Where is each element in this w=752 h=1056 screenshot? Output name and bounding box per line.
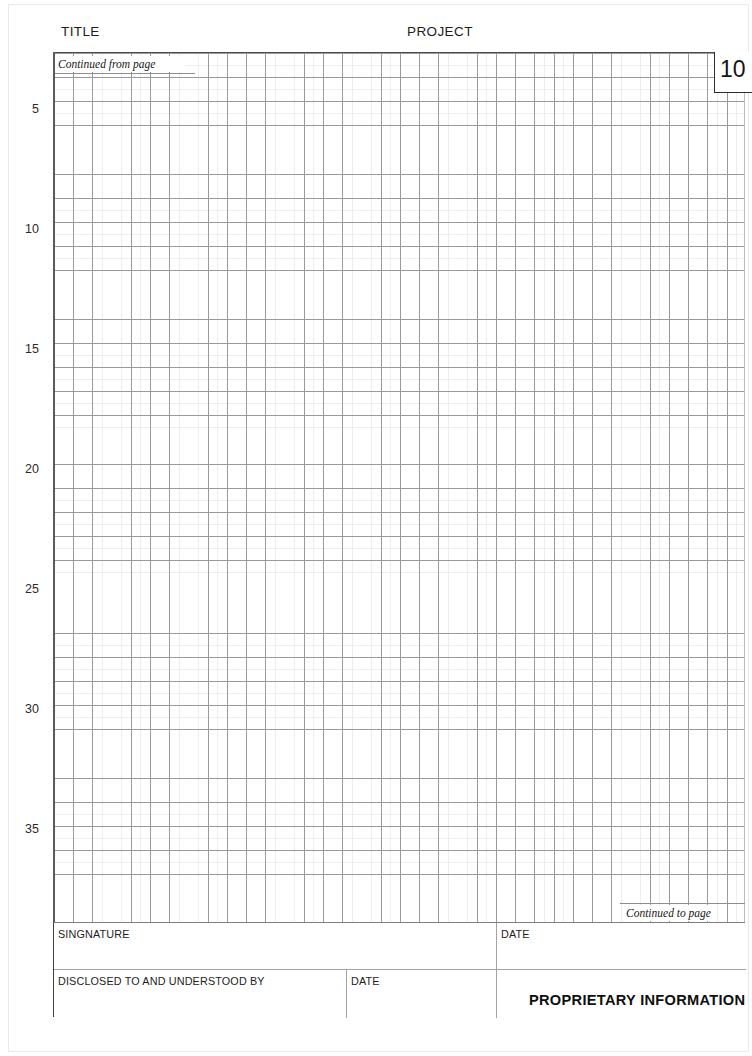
disclosed-to-label: DISCLOSED TO AND UNDERSTOOD BY	[58, 975, 265, 987]
page-border-top	[8, 4, 749, 5]
header-row: TITLE PROJECT	[0, 24, 752, 46]
signature-field[interactable]: SINGNATURE	[54, 923, 496, 969]
disclosed-date-field[interactable]: DATE	[347, 970, 496, 1018]
continued-to-page-field[interactable]: Continued to page	[624, 905, 715, 921]
row-number-gutter: 5101520253035	[0, 52, 53, 922]
disclosed-date-label: DATE	[351, 975, 380, 987]
row-number-15: 15	[25, 343, 39, 356]
footer-divider-horizontal-left	[54, 969, 496, 970]
footer-divider-horizontal-right	[497, 969, 746, 970]
signature-label: SINGNATURE	[58, 928, 130, 940]
grid-left-margin-rule	[53, 52, 55, 922]
page-number-box: 10	[714, 52, 752, 93]
proprietary-notice-cell: PROPRIETARY INFORMATION	[497, 970, 746, 1018]
signature-date-label: DATE	[501, 928, 530, 940]
row-number-10: 10	[25, 223, 39, 236]
project-field-label: PROJECT	[407, 24, 473, 39]
page-number: 10	[720, 58, 746, 81]
row-number-30: 30	[25, 703, 39, 716]
graph-grid-area[interactable]	[53, 52, 745, 922]
title-field-label: TITLE	[61, 24, 100, 39]
signature-footer-block: SINGNATURE DATE DISCLOSED TO AND UNDERST…	[53, 922, 745, 1017]
row-number-25: 25	[25, 583, 39, 596]
row-number-35: 35	[25, 823, 39, 836]
page-border-bottom	[8, 1051, 749, 1052]
continued-from-underline	[55, 73, 195, 74]
continued-to-topline	[620, 903, 745, 904]
row-number-20: 20	[25, 463, 39, 476]
row-number-5: 5	[32, 103, 39, 116]
footer-divider-vertical-mid	[346, 970, 347, 1018]
footer-divider-vertical-right	[496, 923, 497, 1018]
continued-from-page-field[interactable]: Continued from page	[56, 56, 185, 72]
notebook-page: TITLE PROJECT 5101520253035 Continued fr…	[0, 0, 752, 1056]
signature-date-field[interactable]: DATE	[497, 923, 746, 969]
page-border-right	[748, 4, 749, 1052]
disclosed-to-field[interactable]: DISCLOSED TO AND UNDERSTOOD BY	[54, 970, 346, 1018]
proprietary-information-text: PROPRIETARY INFORMATION	[529, 992, 745, 1008]
